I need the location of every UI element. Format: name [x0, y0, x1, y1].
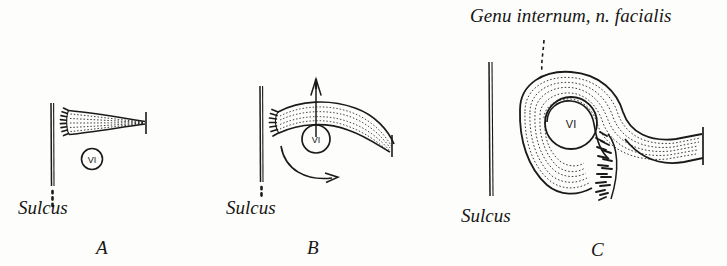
- nerve-bundle-c: [520, 72, 703, 200]
- panel-letter-a: A: [94, 237, 108, 258]
- annotation-leader-line-c: [542, 40, 544, 72]
- genu-internum-annotation: Genu internum, n. facialis: [470, 5, 672, 26]
- sulcus-label-a: Sulcus: [18, 197, 68, 218]
- sulcus-line-c: [489, 62, 493, 196]
- sulcus-label-c: Sulcus: [461, 205, 511, 226]
- figure-root: VI Sulcus A: [0, 0, 727, 266]
- nerve-bundle-a: [60, 108, 146, 136]
- sulcus-line-a: [51, 103, 54, 186]
- panel-b: VI Sulcus B: [226, 79, 394, 258]
- anatomical-figure: VI Sulcus A: [0, 0, 727, 266]
- panel-letter-b: B: [307, 237, 319, 258]
- growth-arrow-up-b: [311, 79, 321, 137]
- abducens-nucleus-c: VI: [545, 97, 597, 149]
- panel-a: VI Sulcus A: [18, 103, 146, 258]
- nucleus-label-c: VI: [566, 118, 576, 130]
- abducens-nucleus-a: VI: [82, 149, 103, 170]
- sulcus-line-b: [260, 86, 263, 182]
- sulcus-label-b: Sulcus: [226, 197, 276, 218]
- nucleus-label-a: VI: [88, 155, 97, 165]
- panel-c: Genu internum, n. facialis: [461, 5, 703, 260]
- panel-letter-c: C: [591, 239, 604, 260]
- nerve-bundle-b: [269, 102, 394, 157]
